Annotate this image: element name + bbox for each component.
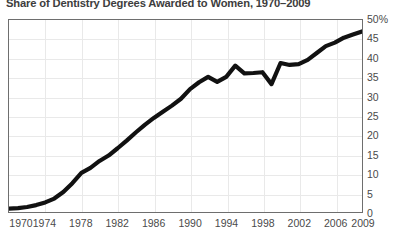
x-tick-label: 1978 xyxy=(69,216,92,230)
x-tick-label: 1990 xyxy=(178,216,201,230)
y-tick-label: 25 xyxy=(367,111,379,122)
y-tick-label: 30 xyxy=(367,91,379,102)
x-tick-label: 1974 xyxy=(33,216,56,230)
page-title: Share of Dentistry Degrees Awarded to Wo… xyxy=(6,0,406,10)
y-tick-label: 20 xyxy=(367,130,379,141)
chart-container: Share of Dentistry Degrees Awarded to Wo… xyxy=(0,0,413,234)
y-tick-label: 40 xyxy=(367,52,379,63)
y-tick-label: 15 xyxy=(367,149,379,160)
y-axis: 50%454035302520151050 xyxy=(367,19,411,213)
y-tick-label: 50% xyxy=(367,14,388,25)
x-tick-label: 2009 xyxy=(351,216,374,230)
x-tick-label: 1998 xyxy=(251,216,274,230)
y-tick-label: 45 xyxy=(367,33,379,44)
x-tick-label: 1994 xyxy=(215,216,238,230)
x-tick-label: 2002 xyxy=(288,216,311,230)
y-tick-label: 10 xyxy=(367,169,379,180)
x-tick-label: 1986 xyxy=(142,216,165,230)
x-tick-label: 1982 xyxy=(106,216,129,230)
plot-inner xyxy=(9,20,362,212)
x-tick-label: 2006 xyxy=(324,216,347,230)
y-tick-label: 35 xyxy=(367,72,379,83)
x-tick-label: 1970 xyxy=(9,216,32,230)
x-axis: 1970197419781982198619901994199820022006… xyxy=(0,216,413,234)
plot-area xyxy=(8,19,363,213)
y-tick-label: 5 xyxy=(367,188,373,199)
series-polyline xyxy=(9,32,362,209)
line-series xyxy=(9,20,362,212)
